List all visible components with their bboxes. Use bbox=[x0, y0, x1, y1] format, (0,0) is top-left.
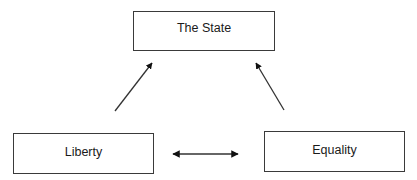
arrow-equality-to-state bbox=[256, 63, 284, 110]
arrows-layer bbox=[0, 0, 417, 180]
arrow-liberty-to-state bbox=[115, 63, 152, 111]
